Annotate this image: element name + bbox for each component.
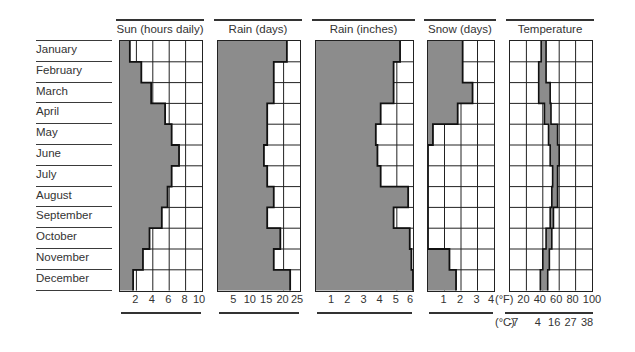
panel-bottom-rule: [219, 312, 299, 314]
month-rule: [36, 123, 112, 124]
axis-tick-label: 5: [230, 293, 236, 305]
month-label: June: [36, 147, 61, 159]
axis-tick-label-c: 16: [548, 316, 560, 328]
axis-tick-label: 5: [393, 293, 399, 305]
month-label: January: [36, 43, 77, 55]
axis-tick-label: 10: [193, 293, 205, 305]
axis-tick-label: 10: [244, 293, 256, 305]
panel-title: Snow (days): [419, 23, 501, 35]
month-label: October: [36, 230, 77, 242]
month-rule: [36, 248, 112, 249]
climate-chart: JanuaryFebruaryMarchAprilMayJuneJulyAugu…: [0, 0, 635, 352]
month-rule: [36, 290, 112, 291]
axis-tick-label: 2: [344, 293, 350, 305]
panel-title: Temperature: [501, 23, 599, 35]
panel-plot: [120, 41, 202, 291]
axis-tick-label: 4: [377, 293, 383, 305]
axis-tick-label-f: 60: [550, 293, 562, 305]
panel-sun: [119, 40, 203, 292]
axis-tick-label: 4: [488, 293, 494, 305]
panel-bottom-rule: [505, 312, 593, 314]
panel-rain-days: [217, 40, 301, 292]
month-rule: [36, 206, 112, 207]
month-rule: [36, 227, 112, 228]
axis-tick-label-c: 38: [581, 316, 593, 328]
axis-tick-label-c: -7: [509, 316, 519, 328]
month-label: March: [36, 85, 68, 97]
panel-title: Rain (days): [209, 23, 307, 35]
axis-tick-label: 15: [260, 293, 272, 305]
axis-tick-label: 3: [473, 293, 479, 305]
axis-tick-label: 4: [149, 293, 155, 305]
panel-top-rule: [312, 19, 415, 21]
axis-tick-label-f: 80: [566, 293, 578, 305]
panel-temp: [509, 40, 593, 292]
month-label: April: [36, 105, 59, 117]
month-rule: [36, 61, 112, 62]
axis-tick-label: 6: [407, 293, 413, 305]
panel-rain-inches: [315, 40, 414, 292]
month-label: November: [36, 251, 89, 263]
month-label: December: [36, 272, 89, 284]
axis-tick-label: 20: [276, 293, 288, 305]
month-label: May: [36, 126, 58, 138]
month-rule: [36, 165, 112, 166]
axis-tick-label-f: 40: [534, 293, 546, 305]
panel-top-rule: [506, 19, 594, 21]
axis-tick-label: 3: [360, 293, 366, 305]
panel-title: Sun (hours daily): [111, 23, 209, 35]
axis-tick-label-f: 100: [583, 293, 601, 305]
axis-tick-label: 25: [291, 293, 303, 305]
panel-bottom-rule: [317, 312, 412, 314]
axis-tick-label: 1: [440, 293, 446, 305]
axis-tick-label-c: 4: [535, 316, 541, 328]
panel-top-rule: [116, 19, 204, 21]
axis-tick-label-f: 20: [517, 293, 529, 305]
month-rule: [36, 82, 112, 83]
panel-plot: [316, 41, 413, 291]
panel-bottom-rule: [429, 312, 493, 314]
month-rule: [36, 186, 112, 187]
panel-plot: [218, 41, 300, 291]
panel-top-rule: [214, 19, 302, 21]
axis-tick-label-c: 27: [564, 316, 576, 328]
panel-snow: [427, 40, 495, 292]
panel-top-rule: [424, 19, 496, 21]
axis-tick-label: 8: [182, 293, 188, 305]
month-label: July: [36, 168, 56, 180]
axis-tick-label: 1: [328, 293, 334, 305]
axis-tick-label: 6: [165, 293, 171, 305]
month-rule: [36, 269, 112, 270]
panel-plot: [428, 41, 494, 291]
month-rule: [36, 144, 112, 145]
axis-tick-label: 2: [132, 293, 138, 305]
panel-title: Rain (inches): [307, 23, 420, 35]
month-label: February: [36, 64, 82, 76]
unit-label-f: (°F): [495, 293, 513, 305]
month-rule: [36, 40, 112, 41]
panel-plot: [510, 41, 592, 291]
value-area: [120, 41, 179, 291]
axis-tick-label: 2: [457, 293, 463, 305]
month-rule: [36, 102, 112, 103]
month-label: August: [36, 189, 72, 201]
month-label: September: [36, 209, 92, 221]
panel-bottom-rule: [121, 312, 201, 314]
